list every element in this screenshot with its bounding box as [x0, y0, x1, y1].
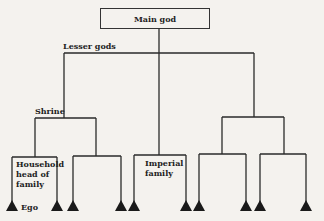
shrine-label: Shrine: [35, 106, 65, 116]
household-label-1: Household: [16, 159, 64, 169]
imperial-label-1: Imperial: [145, 158, 183, 168]
ego-label: Ego: [21, 202, 38, 212]
lesser-gods-label: Lesser gods: [63, 41, 116, 51]
household-label-3: family: [16, 179, 44, 189]
triangle-leaf-icons: [6, 200, 312, 211]
main-god-label: Main god: [134, 14, 176, 24]
household-label-2: head of: [16, 169, 49, 179]
main-god-node: Main god: [100, 8, 210, 29]
imperial-label-2: family: [145, 168, 173, 178]
